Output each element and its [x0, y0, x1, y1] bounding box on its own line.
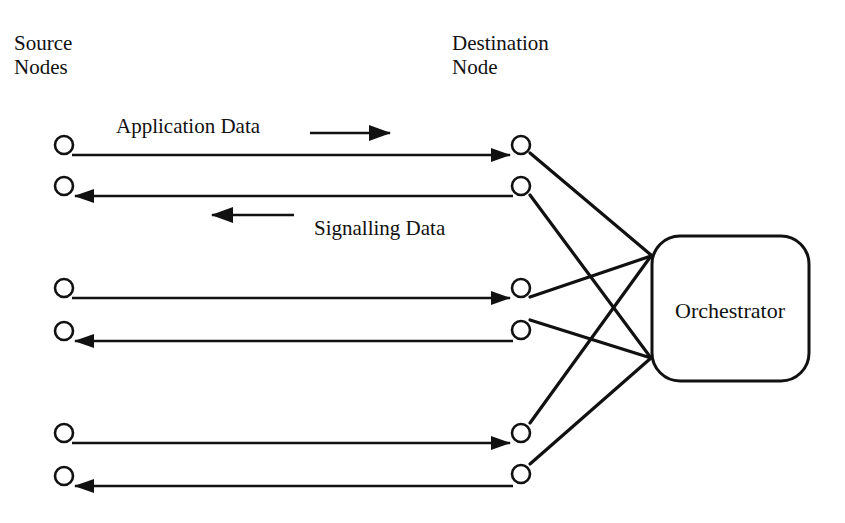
destination-node-2[interactable] [512, 177, 530, 195]
source-node-5[interactable] [55, 424, 73, 442]
link-destination-5 [530, 256, 651, 423]
destination-header-line-2: Node [452, 55, 498, 79]
source-node-1[interactable] [55, 136, 73, 154]
destination-node-6[interactable] [512, 465, 530, 483]
destination-node-header: Destination Node [452, 31, 554, 79]
destination-node-4[interactable] [512, 321, 530, 339]
orchestrator-links [530, 153, 651, 464]
source-nodes [55, 136, 73, 485]
destination-node-3[interactable] [512, 279, 530, 297]
source-nodes-header: Source Nodes [14, 31, 78, 79]
destination-header-line-1: Destination [452, 31, 549, 55]
source-node-2[interactable] [55, 177, 73, 195]
destination-node-1[interactable] [512, 136, 530, 154]
orchestrator-network-diagram: Source Nodes Destination Node Applicatio… [0, 0, 845, 523]
channel-lines [72, 155, 513, 486]
source-node-3[interactable] [55, 279, 73, 297]
link-destination-3 [530, 256, 651, 297]
signalling-data-label: Signalling Data [314, 216, 446, 240]
source-header-line-1: Source [14, 31, 72, 55]
source-header-line-2: Nodes [14, 55, 68, 79]
orchestrator[interactable]: Orchestrator [652, 236, 809, 381]
destination-nodes [512, 136, 530, 483]
link-destination-1 [530, 153, 651, 255]
destination-node-5[interactable] [512, 424, 530, 442]
source-node-6[interactable] [55, 467, 73, 485]
link-destination-6 [530, 358, 651, 464]
application-data-label: Application Data [116, 114, 261, 138]
source-node-4[interactable] [55, 322, 73, 340]
orchestrator-label: Orchestrator [675, 298, 786, 323]
